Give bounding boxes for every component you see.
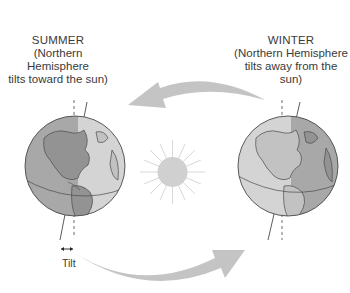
tilt-indicator [61,247,73,251]
winter-globe [238,100,350,240]
seasons-diagram [0,0,350,293]
top-orbit-arrow [128,81,265,108]
tilt-label: Tilt [62,257,76,269]
sun-icon [140,140,205,204]
summer-globe [20,100,125,251]
bottom-orbit-arrow [75,250,245,281]
